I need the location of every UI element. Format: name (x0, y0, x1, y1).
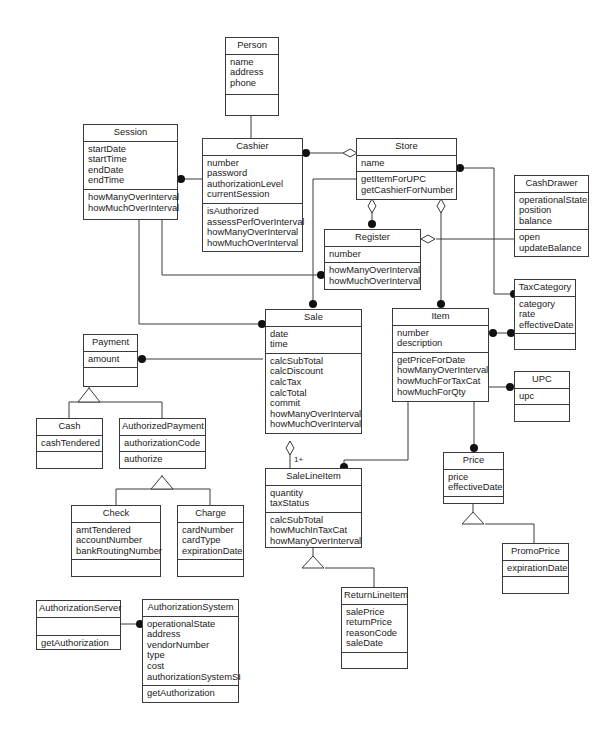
class-name: Store (357, 139, 456, 156)
attributes: authorizationCode (120, 436, 205, 453)
attribute: bankRoutingNumber (76, 546, 156, 557)
attribute: currentSession (207, 189, 298, 200)
attribute: cashTendered (41, 438, 98, 449)
operations (37, 452, 102, 457)
class-name: TaxCategory (515, 280, 575, 297)
class-name: Check (72, 506, 160, 523)
operation: howMuchOverInterval (207, 238, 298, 249)
class-check: Check amtTendered accountNumber bankRout… (71, 505, 161, 577)
operation: howMuchForTaxCat (397, 376, 484, 387)
operation: howManyOverInterval (270, 536, 357, 547)
operation: isAuthorized (207, 206, 298, 217)
class-price: Price price effectiveDate (443, 452, 504, 504)
operation: calcTax (270, 377, 357, 388)
attributes: expirationDate (503, 561, 568, 578)
class-salelineitem: SaleLineItem quantity taxStatus calcSubT… (265, 468, 362, 548)
class-name: Charge (178, 506, 243, 523)
class-authorizationsystem: AuthorizationSystem operationalState add… (142, 599, 239, 703)
operation: howManyOverInterval (88, 192, 173, 203)
attribute: name (361, 158, 452, 169)
operation: getAuthorization (147, 688, 234, 699)
operations: authorize (120, 452, 205, 468)
attributes (37, 618, 120, 636)
attributes: operationalState address vendorNumber ty… (143, 617, 238, 687)
attributes: number (325, 247, 420, 264)
class-register: Register number howManyOverInterval howM… (324, 229, 421, 290)
operations (515, 334, 575, 339)
class-payment: Payment amount (83, 334, 138, 387)
operations: isAuthorized assessPerfOverInterval howM… (203, 204, 302, 251)
attributes: amtTendered accountNumber bankRoutingNum… (72, 523, 160, 561)
operations: getAuthorization (37, 636, 120, 652)
attribute: upc (519, 391, 565, 402)
class-name: Sale (266, 310, 361, 327)
operations (178, 560, 243, 565)
attribute: number (329, 249, 416, 260)
class-upc: UPC upc (514, 371, 570, 422)
attribute: amount (88, 354, 133, 365)
attribute: time (270, 339, 357, 350)
operation: authorize (124, 454, 201, 465)
class-name: CashDrawer (515, 176, 588, 193)
class-authorizedpayment: AuthorizedPayment authorizationCode auth… (119, 418, 206, 469)
class-name: Session (84, 125, 177, 142)
operations (84, 368, 137, 373)
class-authorizationserver: AuthorizationServer getAuthorization (36, 600, 121, 650)
attribute: authorizationCode (124, 438, 201, 449)
attributes: cashTendered (37, 436, 102, 453)
attribute: authorizationSystemSI (147, 672, 234, 683)
class-name: Person (226, 38, 278, 55)
operations: howManyOverInterval howMuchOverInterval (84, 190, 177, 216)
class-cashier: Cashier number password authorizationLev… (202, 138, 303, 252)
attributes: price effectiveDate (444, 470, 503, 497)
operations (226, 95, 278, 100)
class-sale: Sale date time calcSubTotal calcDiscount… (265, 309, 362, 434)
attributes: quantity taxStatus (266, 486, 361, 513)
operation: howMuchOverInterval (88, 203, 173, 214)
class-taxcategory: TaxCategory category rate effectiveDate (514, 279, 576, 350)
attributes: amount (84, 352, 137, 369)
operations (444, 497, 503, 502)
attribute: effectiveDate (519, 320, 571, 331)
attributes: category rate effectiveDate (515, 297, 575, 335)
operation: howMuchOverInterval (329, 276, 416, 287)
operation: getCashierForNumber (361, 185, 452, 196)
class-name: AuthorizedPayment (120, 419, 205, 436)
class-charge: Charge cardNumber cardType expirationDat… (177, 505, 244, 577)
class-name: PromoPrice (503, 544, 568, 561)
uml-class-diagram: Person name address phone Session startD… (0, 0, 615, 730)
attributes: cardNumber cardType expirationDate (178, 523, 243, 561)
attributes: name address phone (226, 55, 278, 95)
class-name: Register (325, 230, 420, 247)
operations: calcSubTotal howMuchInTaxCat howManyOver… (266, 513, 361, 550)
class-cashdrawer: CashDrawer operationalState position bal… (514, 175, 589, 257)
operations: getItemForUPC getCashierForNumber (357, 172, 456, 198)
attributes: operationalState position balance (515, 193, 588, 231)
attribute: description (397, 338, 484, 349)
operations: open updateBalance (515, 230, 588, 256)
class-person: Person name address phone (225, 37, 279, 116)
operation: howMuchOverInterval (270, 419, 357, 430)
operations (72, 560, 160, 565)
attribute: taxStatus (270, 498, 357, 509)
attributes: name (357, 156, 456, 173)
attribute: effectiveDate (448, 482, 499, 493)
attribute: phone (230, 78, 274, 89)
attributes: startDate startTime endDate endTime (84, 142, 177, 190)
operation: updateBalance (519, 243, 584, 254)
attribute: balance (519, 216, 584, 227)
operation: getAuthorization (41, 638, 116, 649)
attributes: salePrice returnPrice reasonCode saleDat… (342, 605, 407, 653)
attributes: date time (266, 327, 361, 354)
class-name: Item (393, 309, 488, 326)
class-name: Cashier (203, 139, 302, 156)
attributes: upc (515, 389, 569, 406)
multiplicity-label: 1+ (294, 455, 303, 464)
class-name: Price (444, 453, 503, 470)
class-name: AuthorizationServer (37, 601, 120, 618)
class-session: Session startDate startTime endDate endT… (83, 124, 178, 220)
class-returnlineitem: ReturnLineItem salePrice returnPrice rea… (341, 587, 408, 669)
operations: getPriceForDate howManyOverInterval howM… (393, 353, 488, 400)
attribute: expirationDate (507, 563, 564, 574)
class-name: Cash (37, 419, 102, 436)
